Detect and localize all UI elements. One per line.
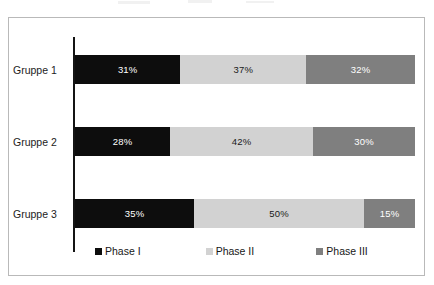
- bar-segment-value: 15%: [380, 209, 400, 219]
- chart-container: Gruppe 1 31% 37% 32% Gruppe 2 28% 42%: [0, 0, 434, 285]
- bar-segment-value: 37%: [233, 65, 253, 75]
- bar-segment-phase-ii[interactable]: 37%: [180, 55, 306, 84]
- category-label-gruppe-3: Gruppe 3: [13, 199, 71, 228]
- legend-item-label: Phase I: [105, 246, 141, 257]
- bar-segment-phase-iii[interactable]: 32%: [306, 55, 415, 84]
- bar-segment-phase-i[interactable]: 28%: [75, 127, 170, 156]
- bar-segment-value: 31%: [118, 65, 138, 75]
- bar-segment-phase-iii[interactable]: 15%: [364, 199, 415, 228]
- bar-segment-phase-iii[interactable]: 30%: [313, 127, 415, 156]
- legend-item-phase-iii[interactable]: Phase III: [316, 246, 417, 257]
- category-label-gruppe-2: Gruppe 2: [13, 127, 71, 156]
- bar-row-gruppe-3: 35% 50% 15%: [75, 199, 415, 228]
- bar-row-gruppe-1: 31% 37% 32%: [75, 55, 415, 84]
- category-label-gruppe-1: Gruppe 1: [13, 55, 71, 84]
- legend-swatch-icon: [95, 248, 102, 255]
- bar-segment-value: 35%: [125, 209, 145, 219]
- bar-row-gruppe-2: 28% 42% 30%: [75, 127, 415, 156]
- legend-item-phase-i[interactable]: Phase I: [95, 246, 196, 257]
- bar-segment-phase-ii[interactable]: 42%: [170, 127, 313, 156]
- category-label-text: Gruppe 3: [13, 208, 57, 220]
- bar-segment-value: 30%: [354, 137, 374, 147]
- bar-segment-value: 28%: [113, 137, 133, 147]
- bar-segment-phase-i[interactable]: 35%: [75, 199, 194, 228]
- legend-item-phase-ii[interactable]: Phase II: [206, 246, 307, 257]
- legend-item-label: Phase II: [216, 246, 255, 257]
- chart-legend: Phase I Phase II Phase III: [75, 243, 417, 260]
- legend-swatch-icon: [316, 248, 323, 255]
- chart-plot-area: Gruppe 1 31% 37% 32% Gruppe 2 28% 42%: [0, 0, 434, 285]
- category-label-text: Gruppe 1: [13, 64, 57, 76]
- legend-swatch-icon: [206, 248, 213, 255]
- bar-segment-value: 50%: [269, 209, 289, 219]
- bar-segment-value: 32%: [351, 65, 371, 75]
- bar-segment-phase-ii[interactable]: 50%: [194, 199, 364, 228]
- bar-segment-phase-i[interactable]: 31%: [75, 55, 180, 84]
- category-label-text: Gruppe 2: [13, 136, 57, 148]
- legend-item-label: Phase III: [326, 246, 367, 257]
- bar-segment-value: 42%: [232, 137, 252, 147]
